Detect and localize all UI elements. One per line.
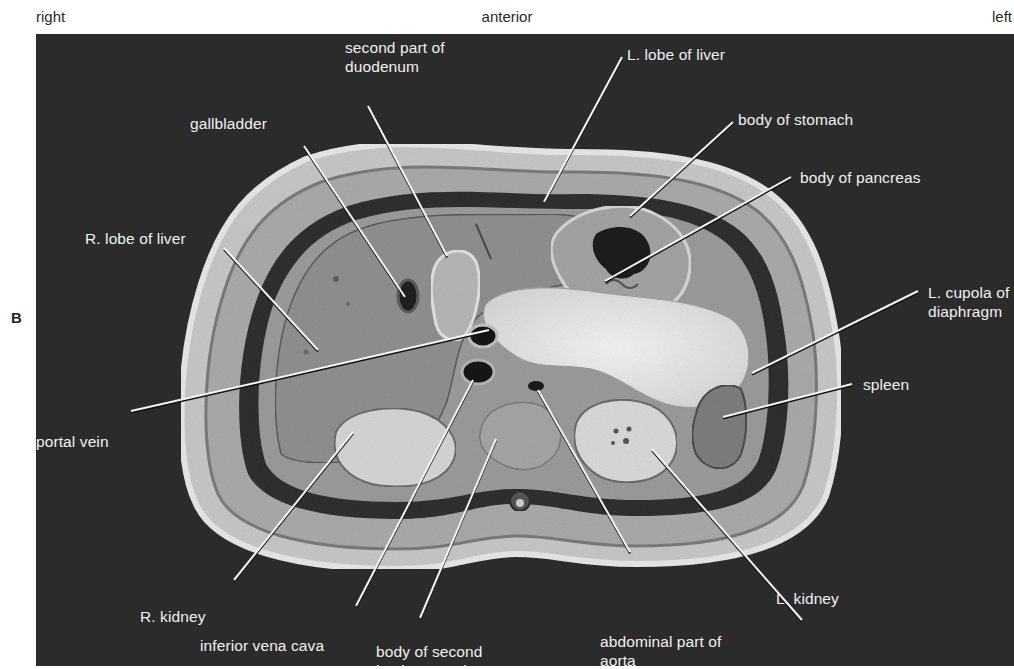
label-r-lobe-of-liver: R. lobe of liver	[85, 229, 186, 248]
label-l-lobe-of-liver: L. lobe of liver	[627, 45, 725, 64]
label-l-kidney: L. kidney	[776, 589, 839, 608]
label-body-of-stomach: body of stomach	[738, 110, 853, 129]
label-portal-vein: portal vein	[36, 432, 109, 451]
cross-section-image	[36, 34, 1014, 666]
label-spleen: spleen	[863, 375, 909, 394]
inferior-vena-cava-shape	[462, 360, 494, 384]
orientation-left-label: left	[992, 8, 1012, 26]
label-body-of-pancreas: body of pancreas	[800, 168, 921, 187]
figure-panel: second part of duodenumL. lobe of liverg…	[36, 34, 1014, 666]
label-second-part-of-duodenum: second part of duodenum	[345, 38, 445, 76]
label-r-kidney: R. kidney	[140, 607, 206, 626]
gallbladder-shape	[398, 280, 418, 312]
panel-letter: B	[11, 309, 22, 326]
label-gallbladder: gallbladder	[190, 114, 267, 133]
aorta-shape	[528, 381, 544, 391]
left-kidney	[574, 400, 677, 482]
orientation-anterior-label: anterior	[0, 8, 1014, 26]
label-abdominal-part-of-aorta: abdominal part of aorta	[600, 632, 721, 666]
label-inferior-vena-cava: inferior vena cava	[200, 636, 324, 655]
label-body-of-second-lumbar-vertebra: body of second lumbar vertebra	[376, 642, 486, 666]
label-l-cupola-of-diaphragm: L. cupola of diaphragm	[928, 283, 1009, 321]
